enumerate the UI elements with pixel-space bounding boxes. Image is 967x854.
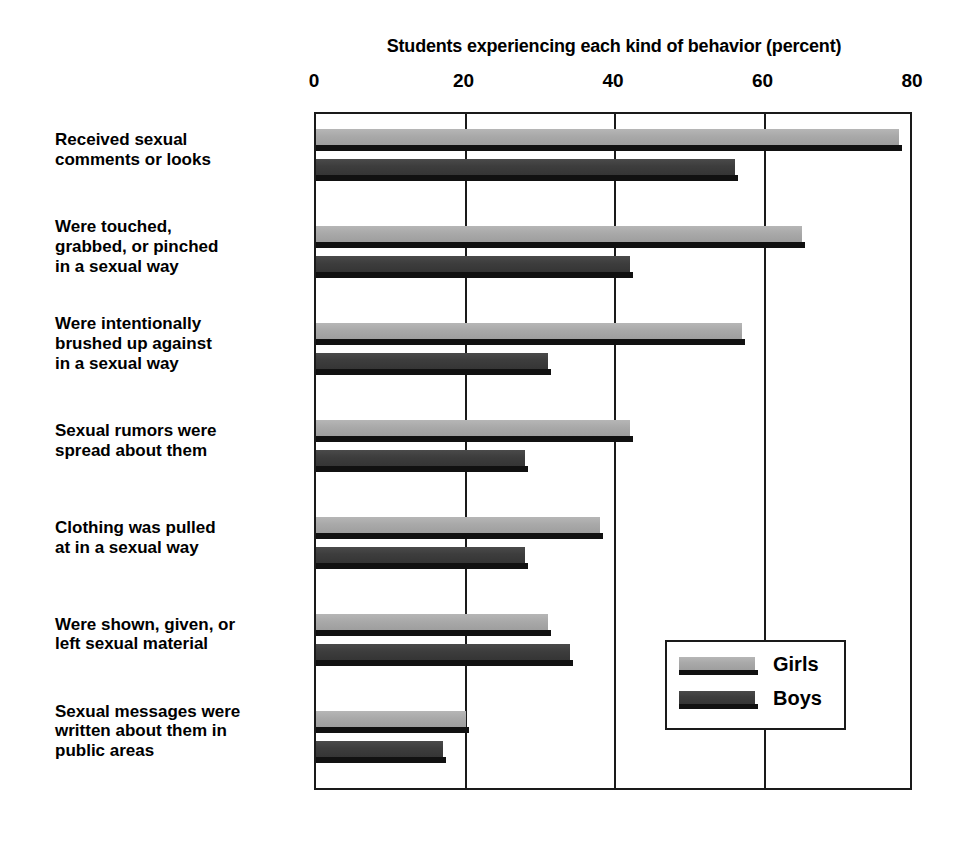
category-label-1: Were touched, grabbed, or pinched in a s… bbox=[55, 217, 305, 276]
bar-girls-0 bbox=[316, 129, 899, 149]
category-label-4: Clothing was pulled at in a sexual way bbox=[55, 518, 305, 557]
x-tick-40: 40 bbox=[602, 70, 623, 92]
bar-girls-6 bbox=[316, 711, 466, 731]
bar-chart: Students experiencing each kind of behav… bbox=[0, 0, 967, 854]
category-label-0: Received sexual comments or looks bbox=[55, 130, 305, 169]
x-tick-0: 0 bbox=[309, 70, 320, 92]
bar-boys-2 bbox=[316, 353, 548, 373]
category-label-2: Were intentionally brushed up against in… bbox=[55, 314, 305, 373]
x-tick-20: 20 bbox=[453, 70, 474, 92]
bar-boys-4 bbox=[316, 547, 525, 567]
bar-girls-1 bbox=[316, 226, 802, 246]
x-tick-60: 60 bbox=[752, 70, 773, 92]
legend-item-boys: Boys bbox=[679, 688, 837, 718]
legend-item-girls: Girls bbox=[679, 654, 837, 684]
bar-boys-3 bbox=[316, 450, 525, 470]
legend: Girls Boys bbox=[665, 640, 846, 730]
bar-girls-5 bbox=[316, 614, 548, 634]
category-label-3: Sexual rumors were spread about them bbox=[55, 421, 305, 460]
legend-label-boys: Boys bbox=[773, 687, 822, 710]
gridline-40 bbox=[614, 114, 616, 788]
category-label-5: Were shown, given, or left sexual materi… bbox=[55, 615, 305, 654]
bar-boys-1 bbox=[316, 256, 630, 276]
x-tick-80: 80 bbox=[901, 70, 922, 92]
legend-label-girls: Girls bbox=[773, 653, 819, 676]
bar-girls-3 bbox=[316, 420, 630, 440]
bar-boys-5 bbox=[316, 644, 570, 664]
legend-swatch-girls bbox=[679, 657, 755, 674]
category-label-6: Sexual messages were written about them … bbox=[55, 702, 305, 761]
chart-title: Students experiencing each kind of behav… bbox=[314, 36, 914, 57]
legend-swatch-boys bbox=[679, 691, 755, 708]
bar-girls-4 bbox=[316, 517, 600, 537]
bar-girls-2 bbox=[316, 323, 742, 343]
bar-boys-0 bbox=[316, 159, 735, 179]
bar-boys-6 bbox=[316, 741, 443, 761]
